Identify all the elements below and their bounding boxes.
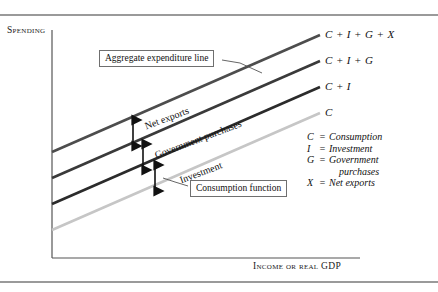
x-axis-title: Income or real GDP [253,261,341,271]
legend-definition-g: Government [329,154,378,166]
line-c-i-g [52,61,320,178]
legend-equals-c: = [319,131,329,143]
legend-row-g: G = Government [307,154,382,166]
legend-row-i: I = Investment [307,143,382,155]
legend-symbol-i: I [307,143,319,155]
legend-continuation-g: purchases [307,166,382,178]
legend-definition-i: Investment [329,143,372,155]
legend-row-x: X = Net exports [307,177,382,189]
legend-equals-x: = [319,177,329,189]
legend-symbol-c: C [307,131,319,143]
curve-label-c: C [325,106,333,118]
curve-label-c-i-g: C + I + G [325,54,373,66]
gap-arrows [133,120,155,191]
legend-equals-i: = [319,143,329,155]
callout-aggregate-expenditure-line: Aggregate expenditure line [99,50,214,67]
legend-definition-c: Consumption [329,131,382,143]
figure-container: Spending Income or real GDP C + I + G + … [0,0,438,292]
y-axis-title: Spending [7,25,45,35]
legend-definition-x: Net exports [329,177,375,189]
legend-row-c: C = Consumption [307,131,382,143]
curve-label-c-i: C + I [325,80,351,92]
legend-equals-g: = [319,154,329,166]
callout-consumption-function: Consumption function [190,180,287,197]
curve-label-c-i-g-x: C + I + G + X [325,28,395,40]
legend: C = Consumption I = Investment G = Gover… [307,131,382,189]
legend-symbol-g: G [307,154,319,166]
legend-symbol-x: X [307,177,319,189]
